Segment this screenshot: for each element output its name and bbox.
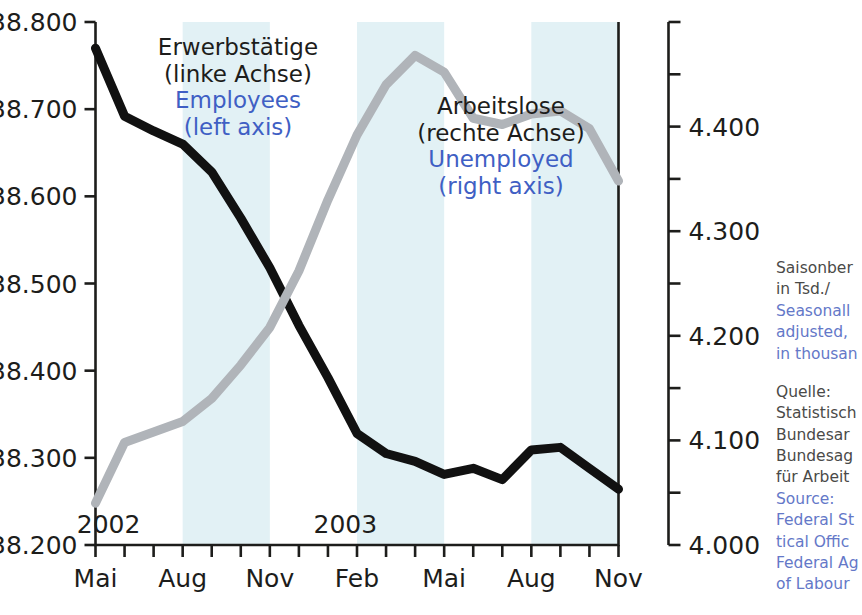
left-axis-tick-label: 38.200 xyxy=(0,531,78,560)
legend-unemployed-en-line1: Unemployed xyxy=(382,146,620,173)
source-de-line5: für Arbeit xyxy=(776,467,862,488)
x-axis-month-label: Mai xyxy=(422,564,466,593)
year-marker-label: 2002 xyxy=(77,510,141,539)
legend-employees-de-line1: Erwerbstätige xyxy=(128,34,348,61)
source-en-line3: tical Offic xyxy=(776,532,862,553)
units-en-line3: in thousan xyxy=(776,344,862,365)
x-axis-month-label: Aug xyxy=(158,564,207,593)
right-axis-tick-label: 4.400 xyxy=(689,113,761,142)
x-axis-month-label: Nov xyxy=(245,564,294,593)
legend-employees-de-line2: (linke Achse) xyxy=(128,61,348,88)
source-de-line2: Statistisch xyxy=(776,403,862,424)
left-axis-tick-label: 38.800 xyxy=(0,8,78,37)
x-axis-month-label: Feb xyxy=(335,564,379,593)
source-de-line1: Quelle: xyxy=(776,382,862,403)
units-de-line2: in Tsd./ xyxy=(776,279,862,300)
left-axis-tick-label: 38.600 xyxy=(0,182,78,211)
left-axis-tick-label: 38.300 xyxy=(0,444,78,473)
right-axis-tick-label: 4.300 xyxy=(689,217,761,246)
units-en-line2: adjusted, xyxy=(776,322,862,343)
right-axis-tick-label: 4.200 xyxy=(689,322,761,351)
x-axis-month-label: Aug xyxy=(507,564,556,593)
left-axis-tick-label: 38.400 xyxy=(0,357,78,386)
source-de-line4: Bundesag xyxy=(776,446,862,467)
legend-unemployed-de-line1: Arbeitslose xyxy=(382,93,620,120)
legend-employees-en-line2: (left axis) xyxy=(128,114,348,141)
side-caption: Saisonber in Tsd./ Seasonall adjusted, i… xyxy=(776,258,862,596)
left-axis-tick-label: 38.500 xyxy=(0,270,78,299)
units-de-line1: Saisonber xyxy=(776,258,862,279)
source-note: Quelle: Statistisch Bundesar Bundesag fü… xyxy=(776,382,862,596)
left-axis-tick-label: 38.700 xyxy=(0,95,78,124)
x-axis-month-label: Nov xyxy=(594,564,643,593)
source-en-line2: Federal St xyxy=(776,510,862,531)
source-en-line5: of Labour xyxy=(776,574,862,595)
legend-employees-en-line1: Employees xyxy=(128,87,348,114)
legend-unemployed-de-line2: (rechte Achse) xyxy=(382,120,620,147)
legend-employees: Erwerbstätige (linke Achse) Employees (l… xyxy=(128,34,348,141)
x-axis-month-label: Mai xyxy=(74,564,118,593)
year-marker-label: 2003 xyxy=(314,510,378,539)
units-en-line1: Seasonall xyxy=(776,301,862,322)
legend-unemployed-en-line2: (right axis) xyxy=(382,173,620,200)
right-axis-tick-label: 4.100 xyxy=(689,426,761,455)
source-de-line3: Bundesar xyxy=(776,425,862,446)
right-axis-tick-label: 4.000 xyxy=(689,531,761,560)
units-note: Saisonber in Tsd./ Seasonall adjusted, i… xyxy=(776,258,862,365)
source-en-line1: Source: xyxy=(776,489,862,510)
legend-unemployed: Arbeitslose (rechte Achse) Unemployed (r… xyxy=(382,93,620,200)
source-en-line4: Federal Ag xyxy=(776,553,862,574)
